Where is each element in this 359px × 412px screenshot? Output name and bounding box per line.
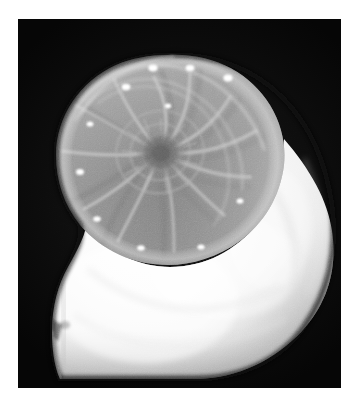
nautilus-shell [18,19,341,388]
photo-plate [18,19,341,388]
shell-artwork [18,19,341,388]
image-canvas [0,0,359,412]
